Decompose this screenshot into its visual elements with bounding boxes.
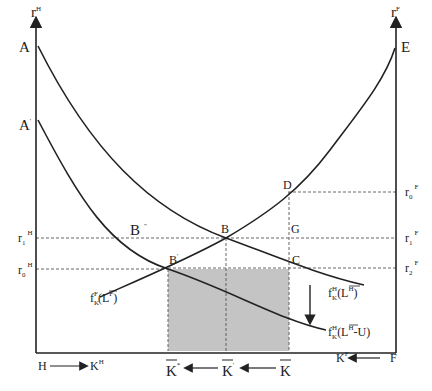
capital-k-prime: K' [222, 361, 234, 379]
point-E: E [401, 39, 410, 55]
home-curve-label: fKH(LH) [328, 285, 358, 302]
shaded-area [168, 269, 289, 351]
capital-market-diagram: rH rF A A' E B B' B" D G C r1H r0H r0F r… [0, 0, 432, 391]
left-axis-label: rH [31, 4, 41, 20]
point-B-double-prime: B" [130, 222, 147, 238]
rate-r2-F: r2F [405, 259, 419, 277]
foreign-curve-label: fKF(LF) [90, 290, 117, 307]
home-origin-label: H [38, 359, 47, 373]
point-G: G [291, 222, 300, 236]
point-D: D [283, 178, 292, 192]
home-capital-label: KH [90, 358, 104, 373]
home-mpk-curve [38, 46, 364, 285]
rate-r1-F: r1F [405, 229, 419, 247]
capital-k-star: K* [166, 361, 181, 379]
capital-k-bar: K [280, 363, 291, 379]
rate-r0-F: r0F [405, 183, 419, 201]
rate-r1-H: r1H [18, 229, 33, 247]
point-C: C [292, 253, 300, 267]
point-A-prime: A' [19, 117, 31, 133]
foreign-origin-label: F [390, 351, 397, 365]
foreign-capital-label: KF [336, 350, 349, 365]
home-shifted-curve-label: fKH(LH-U) [328, 324, 370, 341]
right-axis-label: rF [391, 4, 400, 20]
point-A: A [19, 39, 30, 55]
point-B-prime: B' [169, 252, 178, 267]
foreign-mpk-curve [100, 48, 395, 297]
point-B: B [221, 222, 229, 236]
rate-r0-H: r0H [18, 261, 33, 279]
